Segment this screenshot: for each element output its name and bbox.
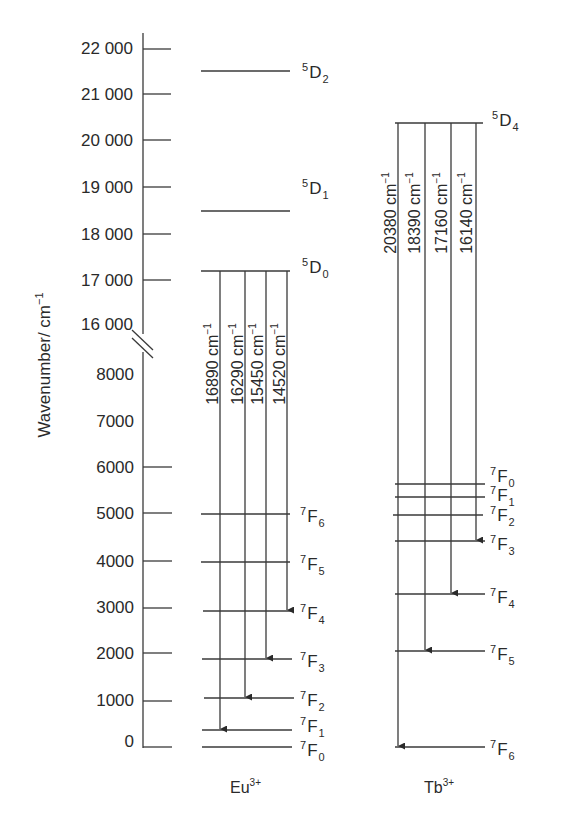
tb-transition-label-20380: 20380 cm−1	[380, 156, 400, 270]
eu-level-7F1: 7F1	[300, 716, 325, 739]
tick-label: 7000	[34, 413, 134, 430]
tick-label: 19 000	[33, 179, 133, 196]
tick-label: 3000	[34, 599, 134, 616]
eu-level-7F6: 7F6	[300, 506, 325, 529]
tb-ion-label: Tb3+	[424, 777, 454, 797]
tick-label: 2000	[34, 645, 134, 662]
eu-level-5D2: 5D2	[302, 62, 329, 85]
y-axis-title-sup: −1	[33, 292, 45, 305]
eu-level-7F2: 7F2	[300, 690, 325, 713]
tb-level-7F3: 7F3	[490, 534, 515, 557]
tb-level-5D4: 5D4	[492, 110, 519, 133]
tick-label: 22 000	[33, 40, 133, 57]
eu-level-7F3: 7F3	[300, 651, 325, 674]
tb-level-7F2: 7F2	[490, 505, 515, 528]
tb-transition-label-16140: 16140 cm−1	[456, 156, 476, 270]
tick-label: 5000	[34, 505, 134, 522]
eu-transition-label-16890: 16890 cm−1	[202, 307, 222, 421]
tick-label: 17 000	[33, 272, 133, 289]
eu-level-7F5: 7F5	[300, 554, 325, 577]
eu-level-7F4: 7F4	[300, 603, 325, 626]
tb-transition-label-17160: 17160 cm−1	[431, 156, 451, 270]
tb-level-7F6: 7F6	[490, 739, 515, 762]
tick-label: 6000	[34, 459, 134, 476]
eu-transition-label-14520: 14520 cm−1	[269, 307, 289, 421]
eu-level-7F0: 7F0	[300, 740, 325, 763]
tick-label: 21 000	[33, 86, 133, 103]
eu-level-5D1: 5D1	[302, 178, 329, 201]
tick-label: 4000	[34, 553, 134, 570]
tb-level-7F5: 7F5	[490, 644, 515, 667]
tick-label: 8000	[34, 366, 134, 383]
tick-label: 0	[34, 733, 134, 750]
eu-transition-label-16290: 16290 cm−1	[227, 307, 247, 421]
eu-level-5D0: 5D0	[302, 257, 329, 280]
energy-level-diagram: Wavenumber/ cm−1 22 000 21 000 20 000 19…	[0, 0, 566, 834]
eu-transition-label-15450: 15450 cm−1	[247, 307, 267, 421]
tb-level-7F4: 7F4	[490, 587, 515, 610]
tick-label: 16 000	[33, 316, 133, 333]
eu-ion-label: Eu3+	[230, 777, 261, 797]
tick-label: 18 000	[33, 226, 133, 243]
tick-label: 20 000	[33, 132, 133, 149]
tb-transition-label-18390: 18390 cm−1	[404, 156, 424, 270]
tick-label: 1000	[34, 692, 134, 709]
